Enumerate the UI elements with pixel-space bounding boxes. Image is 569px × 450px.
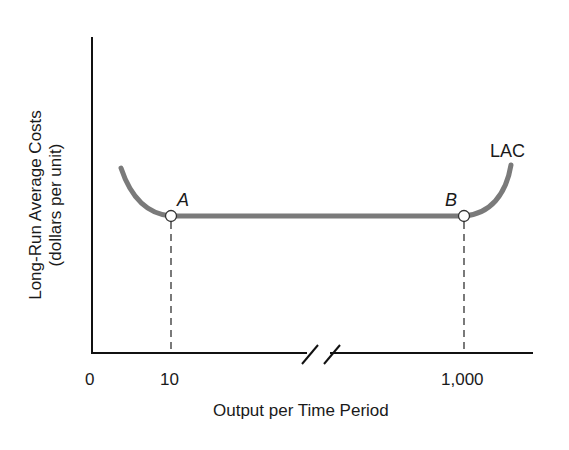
x-tick-10: 10 — [160, 370, 179, 390]
y-axis-label-line2: (dollars per unit) — [46, 110, 66, 300]
y-axis-label: Long-Run Average Costs (dollars per unit… — [26, 110, 66, 300]
point-a-label: A — [177, 190, 189, 211]
point-b-label: B — [445, 190, 457, 211]
lac-curve-label: LAC — [490, 141, 525, 162]
y-axis-label-line1: Long-Run Average Costs — [26, 110, 46, 300]
x-tick-0: 0 — [85, 370, 94, 390]
axis-break-mark — [302, 345, 318, 364]
x-axis-label: Output per Time Period — [213, 401, 389, 421]
axis-break-mark — [324, 345, 340, 364]
point-a — [166, 211, 177, 222]
point-b — [459, 211, 470, 222]
x-tick-1000: 1,000 — [441, 370, 484, 390]
